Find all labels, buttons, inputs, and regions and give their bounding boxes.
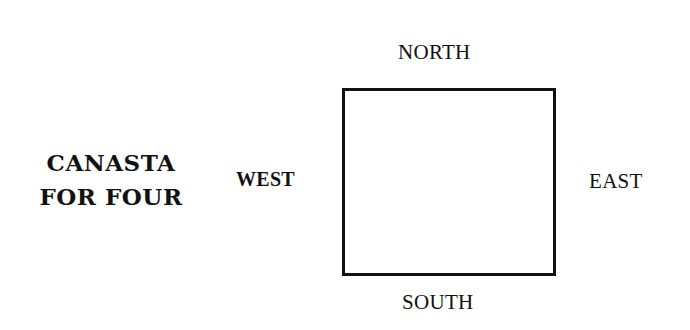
position-south-label: SOUTH <box>402 290 474 315</box>
title-line-2: FOR FOUR <box>26 180 196 214</box>
card-table-square <box>342 88 556 276</box>
position-east-label: EAST <box>589 169 643 194</box>
title-line-1: CANASTA <box>26 146 196 180</box>
position-north-label: NORTH <box>398 40 471 65</box>
position-west-label: WEST <box>236 168 295 191</box>
diagram-title: CANASTA FOR FOUR <box>26 146 196 214</box>
